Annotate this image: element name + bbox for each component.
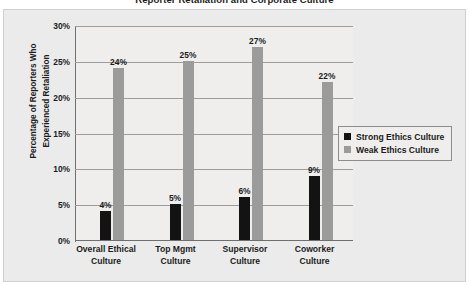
bar[interactable]: 22% [322,82,333,240]
y-tick-label: 15% [53,129,70,139]
plot-inner: 0%5%10%15%20%25%30%4%24%Overall EthicalC… [75,26,353,241]
y-axis-title: Percentage of Reporters Who Experienced … [28,1,54,201]
chart-legend: Strong Ethics CultureWeak Ethics Culture [338,126,452,161]
bar-group: 5%25%Top MgmtCulture [159,25,229,240]
legend-item[interactable]: Strong Ethics Culture [344,130,444,143]
legend-swatch-icon [344,146,351,153]
y-tick-label: 10% [53,164,70,174]
chart-title: Reporter Retaliation and Corporate Cultu… [0,0,469,6]
bar-value-label: 24% [110,57,127,67]
legend-swatch-icon [344,133,351,140]
bar[interactable]: 6% [239,197,250,240]
y-tick-label: 20% [53,93,70,103]
legend-item[interactable]: Weak Ethics Culture [344,143,444,156]
bar-value-label: 27% [249,36,266,46]
bar-value-label: 22% [319,71,336,81]
bar-value-label: 5% [169,193,181,203]
bar-value-label: 4% [99,200,111,210]
category-label-line-2: Culture [272,256,358,268]
bar[interactable]: 5% [170,204,181,240]
category-label-line-1: Coworker [272,244,358,256]
legend-label: Strong Ethics Culture [356,132,444,142]
chart-figure: Reporter Retaliation and Corporate Cultu… [0,0,469,285]
bar[interactable]: 24% [113,68,124,240]
x-axis-line [75,240,353,241]
y-tick-label: 25% [53,57,70,67]
bar-value-label: 25% [180,50,197,60]
y-tick-label: 30% [53,21,70,31]
bar-group: 6%27%SupervisorCulture [228,25,298,240]
y-axis-title-line-1: Percentage of Reporters Who [28,1,41,201]
bar-group: 4%24%Overall EthicalCulture [89,25,159,240]
chart-card: Percentage of Reporters Who Experienced … [3,9,466,282]
category-label: CoworkerCulture [272,244,358,267]
bar[interactable]: 27% [252,47,263,241]
y-tick-label: 5% [58,200,70,210]
legend-label: Weak Ethics Culture [356,145,439,155]
y-axis-title-line-2: Experienced Retaliation [41,1,54,201]
bar[interactable]: 9% [309,176,320,241]
bar-value-label: 9% [308,165,320,175]
plot-area: 0%5%10%15%20%25%30%4%24%Overall EthicalC… [75,26,353,241]
bar[interactable]: 25% [183,61,194,240]
bar-value-label: 6% [238,186,250,196]
bar[interactable]: 4% [100,211,111,240]
